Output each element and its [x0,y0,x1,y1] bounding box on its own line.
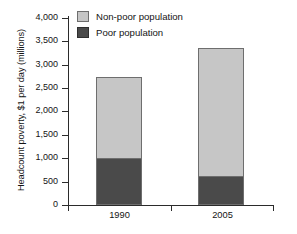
chart-legend: Non-poor population Poor population [77,9,183,41]
bar-2005[interactable] [198,48,244,205]
y-axis-label: 3,000 [0,59,58,69]
stacked-bar-chart: Headcount poverty, $1 per day (millions)… [0,0,297,234]
bar-1990[interactable] [96,77,142,205]
y-axis-label: 0 [0,199,58,209]
y-axis-label: 1,500 [0,129,58,139]
bar-segment-poor-2005[interactable] [198,176,244,205]
plot-area [68,18,274,205]
y-axis-label: 3,500 [0,35,58,45]
y-axis-tick [62,205,68,206]
bar-segment-non-poor-1990[interactable] [96,77,142,158]
y-axis-label: 4,000 [0,12,58,22]
light-gray-swatch-icon [77,11,89,22]
x-axis-label-1990: 1990 [68,210,171,220]
bar-segment-poor-1990[interactable] [96,158,142,205]
legend-item-non-poor[interactable]: Non-poor population [77,9,183,23]
legend-label-poor: Poor population [96,27,163,38]
legend-item-poor[interactable]: Poor population [77,25,183,39]
dark-gray-swatch-icon [77,27,89,38]
y-axis-label: 1,000 [0,152,58,162]
bar-segment-non-poor-2005[interactable] [198,48,244,175]
legend-label-non-poor: Non-poor population [96,11,183,22]
x-axis-label-2005: 2005 [171,210,274,220]
y-axis-label: 2,000 [0,105,58,115]
y-axis-label: 2,500 [0,82,58,92]
y-axis-label: 500 [0,176,58,186]
